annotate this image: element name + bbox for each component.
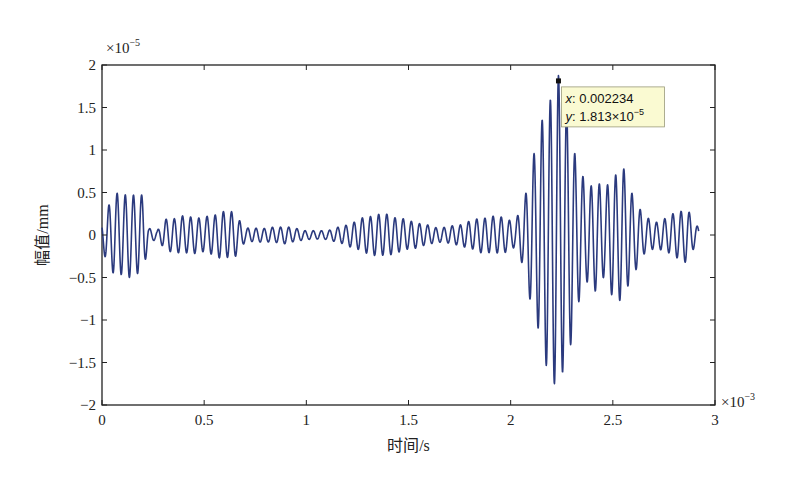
y-tick-label: 0.5 xyxy=(77,185,96,201)
x-tick-label: 1.5 xyxy=(399,412,418,428)
x-tick-label: 1 xyxy=(303,412,311,428)
y-tick-label: −1 xyxy=(80,312,96,328)
data-tip-marker[interactable] xyxy=(556,78,561,83)
y-tick-label: −0.5 xyxy=(69,270,96,286)
y-tick-label: 1 xyxy=(89,142,97,158)
y-axis-label: 幅值/mm xyxy=(34,204,51,266)
y-tick-label: 2 xyxy=(89,57,97,73)
x-axis-label: 时间/s xyxy=(387,437,430,454)
x-tick-label: 0.5 xyxy=(195,412,214,428)
y-tick-label: −1.5 xyxy=(69,355,96,371)
y-axis-multiplier: ×10−5 xyxy=(106,37,140,56)
x-axis-multiplier: ×10−3 xyxy=(721,391,755,410)
y-tick-label: 1.5 xyxy=(77,100,96,116)
y-tick-label: 0 xyxy=(89,227,97,243)
x-tick-label: 3 xyxy=(711,412,719,428)
data-tip[interactable]: x: 0.002234 y: 1.813×10−5 xyxy=(556,78,665,127)
x-tick-label: 2 xyxy=(507,412,515,428)
x-tick-label: 0 xyxy=(98,412,106,428)
data-tip-y: y: 1.813×10−5 xyxy=(564,107,644,124)
line-chart: 00.511.522.53 −2−1.5−1−0.500.511.52 ×10−… xyxy=(0,0,805,490)
x-tick-label: 2.5 xyxy=(603,412,622,428)
y-tick-label: −2 xyxy=(80,397,96,413)
data-tip-x: x: 0.002234 xyxy=(564,91,633,106)
